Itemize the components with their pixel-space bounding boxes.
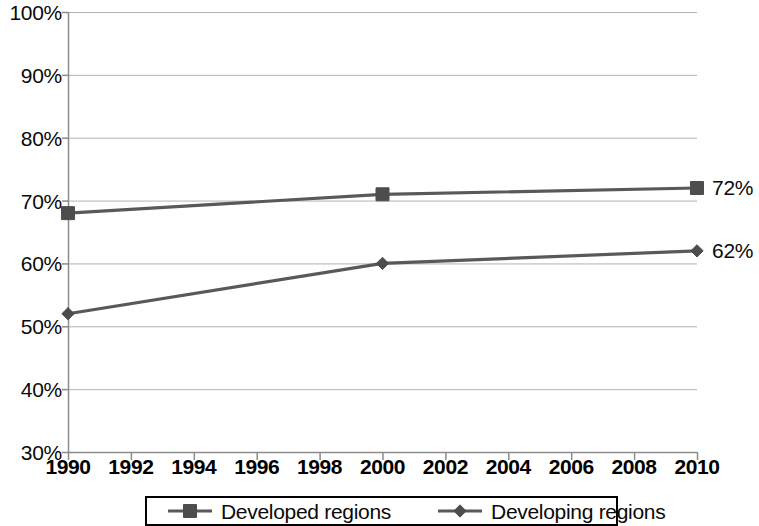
y-axis-label-40: 40% bbox=[0, 379, 62, 400]
legend-key-glyph bbox=[437, 500, 483, 522]
legend-key-glyph bbox=[167, 500, 213, 522]
plot-area bbox=[0, 0, 759, 526]
data-point-marker bbox=[376, 257, 388, 269]
data-point-marker bbox=[376, 188, 389, 201]
y-axis-label-90: 90% bbox=[0, 65, 62, 86]
y-axis-label-60: 60% bbox=[0, 253, 62, 274]
data-point-marker bbox=[62, 308, 74, 320]
series-value-label-1: 62% bbox=[712, 240, 753, 261]
chart-legend: Developed regionsDeveloping regions bbox=[145, 496, 618, 526]
data-point-marker bbox=[691, 245, 703, 257]
legend-entry-0[interactable]: Developed regions bbox=[167, 498, 391, 524]
legend-entry-1[interactable]: Developing regions bbox=[437, 498, 665, 524]
data-point-marker bbox=[62, 207, 75, 220]
y-axis-label-100: 100% bbox=[0, 2, 62, 23]
line-chart: 100%90%80%70%60%50%40%30% 19901992199419… bbox=[0, 0, 759, 526]
x-axis-label-2010: 2010 bbox=[659, 456, 735, 477]
legend-marker-square-icon bbox=[167, 500, 213, 522]
y-axis-label-80: 80% bbox=[0, 128, 62, 149]
series-value-label-0: 72% bbox=[712, 177, 753, 198]
legend-label-0: Developed regions bbox=[221, 501, 391, 522]
y-axis-label-50: 50% bbox=[0, 316, 62, 337]
data-point-marker bbox=[691, 182, 704, 195]
y-axis-label-70: 70% bbox=[0, 191, 62, 212]
legend-marker-diamond-icon bbox=[437, 500, 483, 522]
legend-label-1: Developing regions bbox=[491, 501, 665, 522]
